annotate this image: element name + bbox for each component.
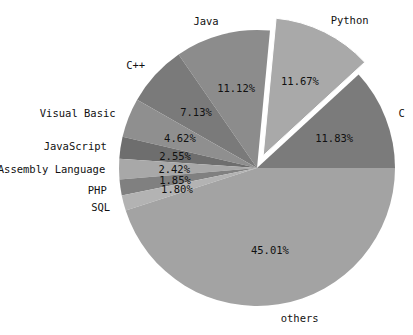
- slice-label: SQL: [91, 201, 110, 213]
- percent-label: 11.83%: [315, 132, 354, 144]
- percent-label: 11.12%: [217, 82, 256, 94]
- pie-chart: 11.83%11.67%11.12%7.13%4.62%2.55%2.42%1.…: [0, 0, 413, 335]
- percent-label: 1.80%: [161, 183, 193, 195]
- percent-label: 11.67%: [281, 75, 320, 87]
- slice-label: C++: [126, 59, 145, 71]
- slice-label: JavaScript: [44, 140, 107, 152]
- slice-label: others: [281, 312, 319, 324]
- percent-label: 4.62%: [164, 132, 196, 144]
- percent-label: 7.13%: [180, 106, 212, 118]
- slice-label: Visual Basic: [40, 107, 116, 119]
- percent-label: 2.55%: [159, 150, 191, 162]
- slice-label: Assembly Language: [0, 163, 105, 175]
- slice-label: Python: [331, 14, 369, 26]
- slice-label: C: [398, 107, 404, 119]
- slice-label: PHP: [88, 184, 107, 196]
- slice-label: Java: [193, 15, 218, 27]
- percent-label: 45.01%: [251, 244, 290, 256]
